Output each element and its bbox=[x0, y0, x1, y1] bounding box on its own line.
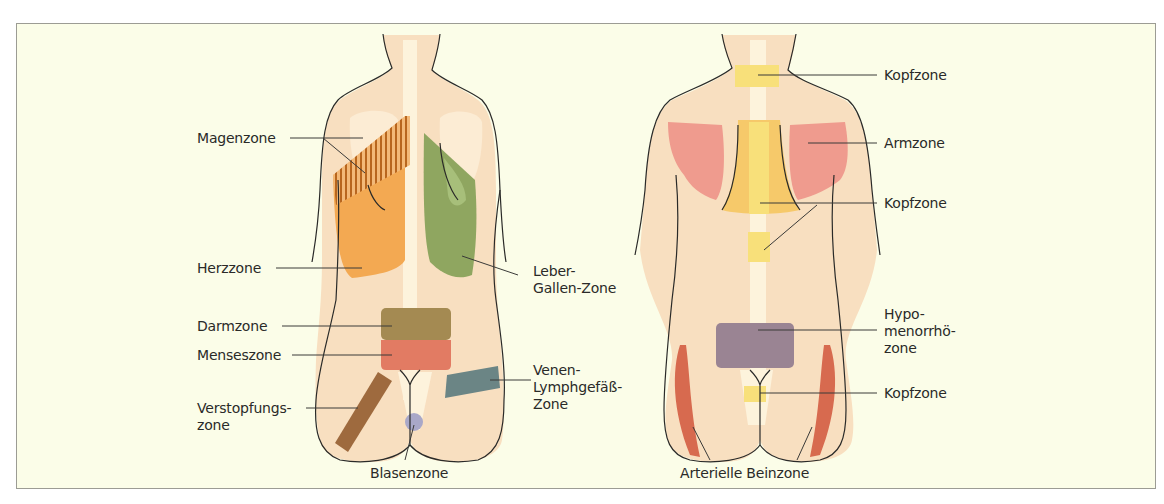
label-leber-line1: Leber- bbox=[533, 263, 575, 279]
label-armzone: Armzone bbox=[884, 135, 945, 151]
label-menseszone: Menseszone bbox=[197, 347, 281, 363]
label-venen-line2: Lymphgefäß- bbox=[533, 379, 622, 395]
label-magenzone: Magenzone bbox=[197, 130, 276, 146]
label-kopfzone-neck: Kopfzone bbox=[884, 67, 947, 83]
label-kopfzone-thorax: Kopfzone bbox=[884, 195, 947, 211]
kopf-zone-neck bbox=[735, 65, 779, 87]
label-herzzone: Herzzone bbox=[197, 260, 261, 276]
magen-zone-spot bbox=[355, 152, 383, 170]
back-zones-illustration bbox=[0, 0, 1164, 504]
label-arterielle-beinzone: Arterielle Beinzone bbox=[680, 465, 809, 481]
kopf-zone-sacral bbox=[744, 386, 766, 402]
right-body bbox=[635, 34, 880, 462]
darm-zone bbox=[381, 308, 451, 340]
label-hypo-line2: menorrhö- bbox=[884, 323, 956, 339]
label-verstopfung-line2: zone bbox=[197, 417, 230, 433]
blasen-zone bbox=[405, 413, 423, 431]
label-blasenzone: Blasenzone bbox=[370, 465, 448, 481]
label-darmzone: Darmzone bbox=[197, 318, 267, 334]
label-venen-line3: Zone bbox=[533, 396, 568, 412]
kopf-zone-lumbar bbox=[748, 232, 770, 262]
label-hypo-line3: zone bbox=[884, 340, 917, 356]
label-verstopfung-line1: Verstopfungs- bbox=[197, 400, 291, 416]
label-leber-line2: Gallen-Zone bbox=[533, 280, 616, 296]
label-venen-line1: Venen- bbox=[533, 362, 580, 378]
label-kopfzone-sacral: Kopfzone bbox=[884, 385, 947, 401]
label-hypo-line1: Hypo- bbox=[884, 306, 925, 322]
left-body bbox=[312, 34, 506, 462]
